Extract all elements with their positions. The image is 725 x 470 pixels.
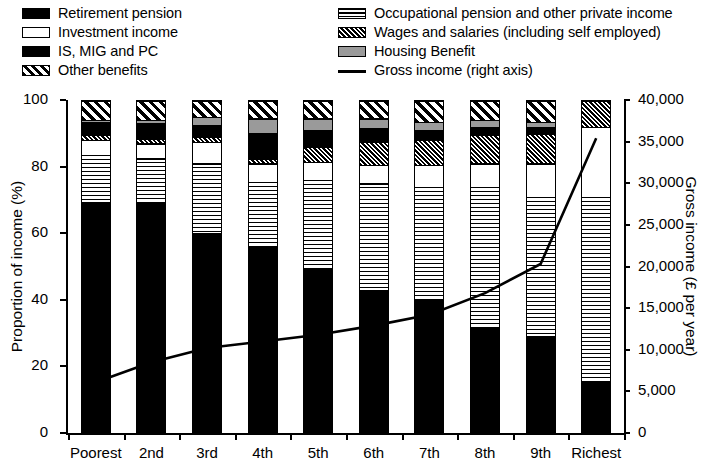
bar-segment: [249, 163, 277, 181]
bar-segment: [527, 100, 555, 122]
x-axis-tick: [124, 435, 126, 440]
bar-segment: [415, 100, 443, 122]
segment-divider: [82, 140, 110, 142]
segment-divider: [249, 163, 277, 165]
left-axis-tick-label: 80: [31, 157, 48, 174]
left-axis-tick: [60, 232, 66, 234]
segment-divider: [360, 183, 388, 185]
segment-divider: [360, 100, 388, 102]
segment-divider: [193, 142, 221, 144]
segment-divider: [304, 268, 332, 270]
segment-divider: [82, 120, 110, 122]
bar-segment: [415, 140, 443, 165]
right-axis-tick-label: 20,000: [638, 257, 684, 274]
segment-divider: [582, 381, 610, 383]
dense-diagonal-hatch-swatch: [338, 27, 366, 38]
left-axis-tick: [60, 299, 66, 301]
bar-segment: [471, 120, 499, 127]
right-axis-tick: [624, 224, 630, 226]
bar-segment: [360, 128, 388, 141]
segment-divider: [304, 147, 332, 149]
x-axis-label: 2nd: [124, 444, 180, 461]
legend-item: Gross income (right axis): [338, 61, 673, 80]
bar-segment: [82, 140, 110, 155]
right-axis-tick-label: 40,000: [638, 90, 684, 107]
bar-segment: [304, 130, 332, 147]
bar-segment: [527, 197, 555, 337]
legend-column-left: Retirement pensionInvestment incomeIS, M…: [22, 4, 182, 80]
segment-divider: [582, 197, 610, 199]
right-axis-tick: [624, 390, 630, 392]
segment-divider: [582, 100, 610, 102]
solid-black-swatch: [22, 46, 50, 57]
bar-stack: [192, 100, 222, 433]
left-axis-tick-label: 20: [31, 356, 48, 373]
segment-divider: [249, 133, 277, 135]
bar-segment: [471, 187, 499, 329]
right-axis-tick: [624, 141, 630, 143]
segment-divider: [193, 100, 221, 102]
bar-segment: [82, 155, 110, 202]
segment-divider: [137, 138, 165, 140]
wide-diagonal-hatch-swatch: [22, 65, 50, 76]
bar-segment: [193, 125, 221, 137]
legend-item: Wages and salaries (including self emplo…: [338, 23, 673, 42]
segment-divider: [304, 162, 332, 164]
legend-item: IS, MIG and PC: [22, 42, 182, 61]
segment-divider: [137, 100, 165, 102]
legend-item-label: Housing Benefit: [374, 44, 475, 59]
bar-segment: [527, 133, 555, 163]
bar-segment: [137, 203, 165, 433]
segment-divider: [471, 328, 499, 330]
segment-divider: [360, 118, 388, 120]
bar-segment: [471, 163, 499, 186]
legend-column-right: Occupational pension and other private i…: [338, 4, 673, 80]
bar-segment: [415, 300, 443, 433]
segment-divider: [415, 187, 443, 189]
segment-divider: [82, 122, 110, 124]
legend-item-label: Investment income: [58, 25, 178, 40]
x-axis-label: 8th: [457, 444, 513, 461]
right-axis-tick-label: 5,000: [638, 381, 676, 398]
segment-divider: [137, 120, 165, 122]
segment-divider: [249, 158, 277, 160]
right-axis-tick-label: 35,000: [638, 132, 684, 149]
segment-divider: [82, 100, 110, 102]
bar-segment: [193, 142, 221, 164]
segment-divider: [82, 202, 110, 204]
bar-segment: [137, 158, 165, 203]
bar-segment: [582, 381, 610, 433]
chart-legend: Retirement pensionInvestment incomeIS, M…: [0, 4, 725, 92]
bar-stack: [526, 100, 556, 433]
left-axis-tick: [60, 432, 66, 434]
bar-segment: [82, 120, 110, 122]
bar-segment: [471, 135, 499, 163]
segment-divider: [360, 165, 388, 167]
bar-stack: [470, 100, 500, 433]
bar-segment: [137, 120, 165, 123]
y-axis-title-left: Proportion of income (%): [8, 100, 28, 433]
segment-divider: [137, 143, 165, 145]
bar-segment: [582, 100, 610, 127]
segment-divider: [360, 128, 388, 130]
bar-stack: [359, 100, 389, 433]
bar-segment: [249, 100, 277, 118]
bar-segment: [471, 328, 499, 433]
y-axis-title-right-text: Gross income (£ per year): [683, 176, 700, 356]
plot-area: 020406080100 05,00010,00015,00020,00025,…: [68, 100, 624, 433]
x-axis-tick: [235, 435, 237, 440]
segment-divider: [415, 140, 443, 142]
horizontal-lines-swatch: [338, 8, 366, 19]
right-axis-tick-label: 0: [638, 423, 646, 440]
right-axis-tick-label: 25,000: [638, 215, 684, 232]
left-axis-tick-label: 100: [23, 90, 48, 107]
legend-item-label: Wages and salaries (including self emplo…: [374, 25, 661, 40]
segment-divider: [527, 197, 555, 199]
right-axis-tick: [624, 349, 630, 351]
right-axis-tick: [624, 432, 630, 434]
bar-segment: [137, 143, 165, 158]
x-axis-tick: [513, 435, 515, 440]
legend-item: Investment income: [22, 23, 182, 42]
x-axis-tick: [624, 435, 626, 440]
x-axis-tick: [68, 435, 70, 440]
